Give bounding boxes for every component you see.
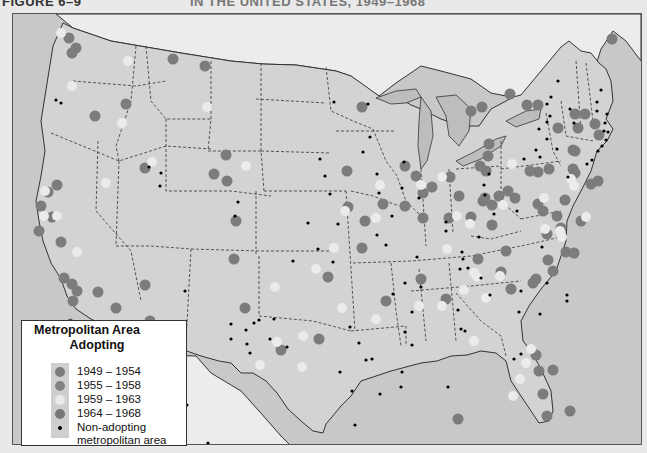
- city-dot: [121, 99, 132, 110]
- city-dot: [56, 28, 66, 38]
- city-dot: [505, 89, 516, 100]
- city-dot: [542, 411, 553, 422]
- city-dot: [469, 336, 479, 346]
- legend-label-line2: metropolitan area: [77, 434, 167, 446]
- city-dot: [526, 344, 536, 354]
- city-dot: [593, 176, 604, 187]
- city-dot: [270, 282, 280, 292]
- city-dot: [454, 191, 465, 202]
- city-dot: [538, 312, 541, 315]
- city-dot: [515, 209, 518, 212]
- city-dot: [479, 276, 482, 279]
- figure-header: FIGURE 6–9 IN THE UNITED STATES, 1949–19…: [0, 0, 647, 8]
- city-dot: [568, 107, 571, 110]
- city-dot: [461, 257, 464, 260]
- city-dot: [311, 264, 321, 274]
- city-dot: [248, 351, 251, 354]
- city-dot: [328, 192, 331, 195]
- city-dot: [52, 211, 62, 221]
- city-dot: [483, 151, 494, 162]
- city-dot: [350, 389, 353, 392]
- city-dot: [384, 243, 387, 246]
- city-dot: [538, 206, 549, 217]
- city-dot: [506, 284, 517, 295]
- city-dot: [544, 164, 555, 175]
- city-dot: [498, 200, 508, 210]
- city-dot: [417, 196, 420, 199]
- city-dot: [519, 352, 522, 355]
- city-dot: [569, 248, 580, 259]
- city-dot: [534, 148, 537, 151]
- city-dot: [377, 191, 380, 194]
- city-dot: [147, 165, 150, 168]
- city-dot: [316, 247, 319, 250]
- city-dot: [209, 169, 220, 180]
- city-dot: [318, 157, 321, 160]
- city-dot: [229, 337, 232, 340]
- city-dot: [111, 303, 122, 314]
- city-dot: [402, 160, 405, 163]
- city-dot: [553, 123, 564, 134]
- city-dot: [444, 220, 447, 223]
- city-dot: [604, 138, 607, 141]
- city-dot: [477, 235, 480, 238]
- city-dot: [329, 243, 339, 253]
- city-dot: [452, 211, 462, 221]
- legend: Metropolitan Area Adopting 1949 – 1954 1…: [21, 320, 187, 446]
- city-dot: [522, 100, 533, 111]
- city-dot: [453, 414, 464, 425]
- figure-title: IN THE UNITED STATES, 1949–1968: [190, 0, 425, 9]
- city-dot: [437, 301, 447, 311]
- city-dot: [348, 325, 351, 328]
- city-dot: [410, 343, 413, 346]
- city-dot: [314, 334, 325, 345]
- city-dot: [560, 195, 571, 206]
- city-dot: [375, 233, 378, 236]
- city-dot: [368, 135, 371, 138]
- city-dot: [183, 289, 186, 292]
- city-dot: [410, 310, 413, 313]
- city-dot: [522, 157, 525, 160]
- city-dot: [585, 162, 588, 165]
- city-dot: [400, 201, 411, 212]
- city-dot: [427, 182, 438, 193]
- city-dot: [67, 81, 77, 91]
- city-dot: [34, 226, 45, 237]
- city-dot: [336, 222, 339, 225]
- city-dot: [419, 285, 422, 288]
- city-dot: [400, 370, 403, 373]
- city-dot: [272, 337, 282, 347]
- city-dot: [566, 175, 569, 178]
- city-dot: [519, 289, 522, 292]
- city-dot: [298, 331, 308, 341]
- city-dot: [381, 296, 392, 307]
- city-dot: [221, 150, 232, 161]
- city-dot: [252, 321, 255, 324]
- city-dot: [414, 301, 424, 311]
- city-dot: [306, 221, 309, 224]
- city-dot: [391, 292, 394, 295]
- city-dot: [400, 186, 403, 189]
- city-dot: [482, 183, 485, 186]
- city-dot: [323, 174, 326, 177]
- city-dot: [371, 213, 381, 223]
- legend-title: Metropolitan Area Adopting: [22, 323, 152, 353]
- city-dot: [403, 281, 406, 284]
- legend-title-line2: Adopting: [22, 338, 152, 353]
- city-dot: [569, 181, 579, 191]
- city-dot: [538, 155, 541, 158]
- city-dot: [59, 101, 62, 104]
- city-dot: [539, 193, 549, 203]
- city-dot: [337, 303, 347, 313]
- city-dot: [557, 232, 567, 242]
- city-dot: [533, 100, 544, 111]
- city-dot: [477, 102, 488, 113]
- circle-icon: [55, 409, 65, 419]
- city-dot: [463, 329, 466, 332]
- city-dot: [202, 102, 212, 112]
- city-dot: [353, 423, 356, 426]
- city-dot: [552, 211, 563, 222]
- city-dot: [465, 219, 475, 229]
- city-dot: [508, 391, 518, 401]
- city-dot: [540, 224, 550, 234]
